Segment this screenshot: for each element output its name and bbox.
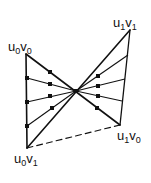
square-marker bbox=[96, 94, 100, 98]
dashed-edge bbox=[27, 125, 120, 148]
square-marker bbox=[50, 106, 54, 110]
fan-line bbox=[76, 55, 128, 91]
square-marker bbox=[96, 74, 100, 78]
patch-edge bbox=[26, 54, 120, 125]
vertex-label-u0v0: u0v0 bbox=[8, 40, 32, 56]
square-marker bbox=[96, 84, 100, 88]
square-marker bbox=[95, 106, 99, 110]
square-marker bbox=[48, 94, 52, 98]
square-marker bbox=[25, 124, 29, 128]
vertex-label-u0v1: u0v1 bbox=[14, 152, 38, 168]
square-marker bbox=[74, 89, 78, 93]
square-marker bbox=[25, 100, 29, 104]
square-marker bbox=[48, 70, 52, 74]
square-marker bbox=[25, 76, 29, 80]
square-marker bbox=[48, 82, 52, 86]
vertex-label-u1v1: u1v1 bbox=[113, 16, 137, 32]
vertex-label-u1v0: u1v0 bbox=[117, 129, 141, 145]
patch-edge bbox=[120, 30, 130, 125]
fan-line bbox=[76, 79, 125, 91]
